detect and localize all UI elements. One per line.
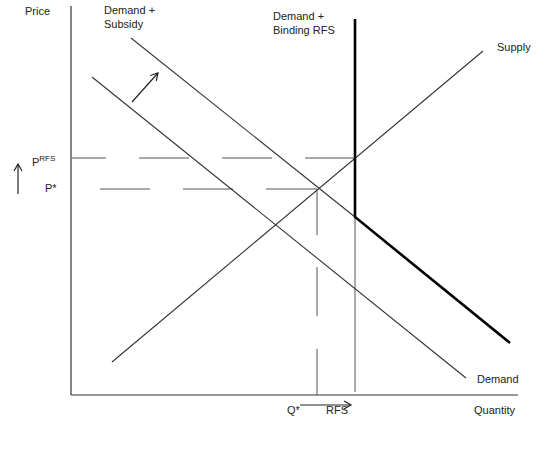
y-axis-label: Price <box>25 5 50 18</box>
supply-demand-diagram <box>0 0 548 453</box>
demand-subsidy-label-line1: Demand + <box>104 4 155 17</box>
q-star-label: Q* <box>287 404 300 417</box>
demand-binding-rfs-curve <box>355 19 510 343</box>
demand-subsidy-curve <box>131 38 355 217</box>
demand-subsidy-label-line2: Subsidy <box>104 18 143 31</box>
demand-rfs-label-line1: Demand + <box>273 10 324 23</box>
p-rfs-superscript: RFS <box>39 154 55 163</box>
demand-shift-arrow-icon <box>132 73 158 102</box>
demand-rfs-label-line2: Binding RFS <box>273 24 335 37</box>
demand-label: Demand <box>477 373 519 386</box>
p-star-label: P* <box>45 182 57 195</box>
demand-curve <box>92 77 466 378</box>
supply-label: Supply <box>497 41 531 54</box>
rfs-quantity-label: RFS <box>326 404 348 417</box>
supply-curve <box>112 51 483 362</box>
x-axis-label: Quantity <box>474 404 515 417</box>
p-rfs-label: PRFS <box>32 152 55 169</box>
